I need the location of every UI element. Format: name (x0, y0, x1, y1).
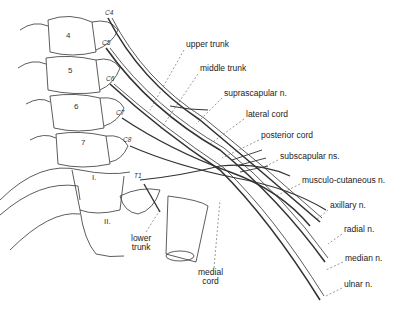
root-c6-label: C6 (106, 75, 114, 82)
rib-1-label: I. (92, 173, 96, 182)
subscapular-ns-label: subscapular ns. (280, 152, 340, 161)
musculo-cutaneous-n-label: musculo-cutaneous n. (302, 176, 385, 185)
ulnar-n-label: ulnar n. (344, 280, 372, 289)
root-c4-label: C4 (105, 9, 113, 16)
posterior-cord-label: posterior cord (261, 131, 313, 140)
root-c7-label: C7 (116, 109, 124, 116)
root-t1-label: T1 (134, 172, 142, 179)
vertebra-c4-label: 4 (66, 31, 70, 40)
brachial-plexus-diagram: 4 5 6 7 I. II. C4 C5 C6 C7 C8 T1 upper t… (0, 0, 397, 309)
vertebra-c6-label: 6 (74, 102, 78, 111)
root-c5-label: C5 (102, 39, 110, 46)
suprascapular-n-label: suprascapular n. (224, 89, 287, 98)
vertebra-c5-label: 5 (68, 66, 72, 75)
radial-n-label: radial n. (344, 225, 374, 234)
root-c8-label: C8 (123, 136, 131, 143)
medial-cord-label: medial cord (198, 268, 223, 286)
lateral-cord-label: lateral cord (246, 110, 288, 119)
lower-trunk-label: lower trunk (131, 234, 151, 252)
upper-trunk-label: upper trunk (186, 40, 229, 49)
rib-2-label: II. (104, 217, 111, 226)
median-n-label: median n. (345, 254, 382, 263)
middle-trunk-label: middle trunk (200, 64, 246, 73)
axillary-n-label: axillary n. (330, 201, 366, 210)
vertebra-c7-label: 7 (81, 138, 85, 147)
